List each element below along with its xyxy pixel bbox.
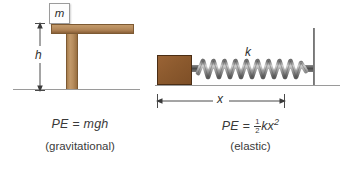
mass-label: m <box>49 8 70 20</box>
table-top <box>51 24 134 34</box>
ground-line-right <box>155 85 340 86</box>
formula-equals-right: = <box>243 119 251 133</box>
formula-prefix-pe-left: PE <box>52 117 69 131</box>
formula-equals-left: = <box>72 117 80 131</box>
displacement-label: x <box>217 92 223 106</box>
elastic-formula: PE = 1 2 kx2 <box>150 117 351 135</box>
displacement-dimension-arrow <box>155 90 295 112</box>
formula-prefix-pe-right: PE <box>222 119 239 133</box>
spring-coil <box>198 55 308 85</box>
table-post <box>66 34 78 89</box>
elastic-panel: x k PE = 1 2 kx2 (elastic) <box>150 0 351 171</box>
gravitational-caption: (gravitational) <box>0 140 160 152</box>
potential-energy-figure: m h PE = mgh (gravitational) <box>0 0 351 171</box>
one-half-fraction: 1 2 <box>254 118 260 135</box>
formula-exponent: 2 <box>274 117 279 127</box>
fraction-denominator: 2 <box>254 126 260 135</box>
elastic-caption: (elastic) <box>150 140 351 152</box>
spring-constant-label: k <box>245 45 251 59</box>
gravitational-formula: PE = mgh <box>0 117 160 131</box>
formula-body-left: mgh <box>84 117 109 131</box>
fraction-numerator: 1 <box>254 118 260 126</box>
gravitational-panel: m h PE = mgh (gravitational) <box>0 0 160 171</box>
height-label: h <box>35 48 42 62</box>
wall <box>313 28 315 85</box>
formula-body-right: kx <box>261 119 274 133</box>
mass-block <box>157 55 192 85</box>
